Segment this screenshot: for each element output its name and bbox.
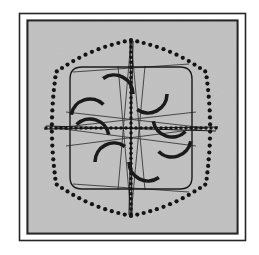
outline-dot	[198, 66, 202, 70]
outline-dot	[110, 209, 114, 213]
outline-dot	[51, 101, 55, 105]
outline-dot	[71, 193, 75, 197]
cross-dot-vertical	[129, 106, 132, 109]
outline-dot	[51, 95, 55, 99]
cross-dot-vertical	[129, 96, 132, 99]
cross-dot-horizontal	[124, 126, 127, 129]
outline-dot	[207, 157, 211, 161]
outline-dot	[155, 207, 159, 211]
outline-dot	[50, 115, 54, 119]
outline-dot	[77, 56, 81, 60]
outline-dot	[205, 177, 209, 181]
cross-dot-horizontal	[54, 126, 57, 129]
outline-dot	[123, 39, 127, 43]
outline-dot	[135, 39, 139, 43]
cross-dot-vertical	[129, 187, 132, 190]
figure-root	[0, 0, 259, 255]
outline-dot	[96, 205, 100, 209]
outline-dot	[142, 211, 146, 215]
cross-dot-horizontal	[109, 126, 112, 129]
cross-dot-vertical	[129, 197, 132, 200]
cross-dot-horizontal	[189, 126, 192, 129]
outline-dot	[51, 157, 55, 161]
cross-dot-horizontal	[84, 126, 87, 129]
outline-dot	[116, 41, 120, 45]
outline-dot	[208, 122, 212, 126]
cross-dot-vertical	[129, 212, 132, 215]
outline-dot	[198, 186, 202, 190]
cross-dot-vertical	[129, 177, 132, 180]
outline-dot	[110, 43, 114, 47]
outline-dot	[148, 209, 152, 213]
outline-dot	[53, 177, 57, 181]
outline-dot	[207, 150, 211, 154]
cross-dot-vertical	[129, 40, 132, 43]
cross-dot-vertical	[129, 192, 132, 195]
cross-dot-horizontal	[164, 126, 167, 129]
cross-dot-horizontal	[74, 126, 77, 129]
figure-canvas	[0, 0, 259, 255]
cross-dot-horizontal	[89, 126, 92, 129]
outline-dot	[52, 88, 56, 92]
cross-dot-vertical	[129, 116, 132, 119]
cross-dot-horizontal	[169, 126, 172, 129]
outline-dot	[60, 66, 64, 70]
outline-dot	[103, 45, 107, 49]
outline-dot	[55, 69, 59, 73]
cross-dot-vertical	[129, 66, 132, 69]
outline-dot	[208, 144, 212, 148]
cross-dot-vertical	[129, 76, 132, 79]
cross-dot-vertical	[129, 61, 132, 64]
cross-dot-vertical	[129, 101, 132, 104]
outline-dot	[148, 43, 152, 47]
outline-dot	[168, 50, 172, 54]
outline-dot	[55, 182, 59, 186]
cross-dot-horizontal	[99, 126, 102, 129]
cross-dot-horizontal	[179, 126, 182, 129]
cross-dot-vertical	[129, 147, 132, 150]
cross-dot-vertical	[129, 202, 132, 205]
outline-dot	[181, 56, 185, 60]
outline-dot	[187, 193, 191, 197]
outline-dot	[161, 47, 165, 51]
outline-dot	[103, 207, 107, 211]
cross-dot-vertical	[129, 121, 132, 124]
cross-dot-horizontal	[149, 126, 152, 129]
outline-dot	[206, 164, 210, 168]
outline-dot	[53, 170, 57, 174]
cross-dot-vertical	[129, 45, 132, 48]
cross-dot-horizontal	[214, 126, 217, 129]
outline-dot	[142, 41, 146, 45]
outline-dot	[168, 202, 172, 206]
outline-dot	[203, 182, 207, 186]
outline-dot	[203, 69, 207, 73]
cross-dot-horizontal	[129, 126, 132, 129]
cross-dot-horizontal	[194, 126, 197, 129]
cross-dot-vertical	[129, 50, 132, 53]
outline-dot	[90, 50, 94, 54]
cross-dot-vertical	[129, 131, 132, 134]
cross-dot-horizontal	[94, 126, 97, 129]
outline-dot	[65, 62, 69, 66]
outline-dot	[50, 122, 54, 126]
outline-dot	[161, 205, 165, 209]
outline-dot	[96, 47, 100, 51]
outline-dot	[206, 88, 210, 92]
cross-dot-vertical	[129, 152, 132, 155]
outline-dot	[50, 129, 54, 133]
cross-dot-horizontal	[159, 126, 162, 129]
cross-dot-horizontal	[184, 126, 187, 129]
cross-dot-vertical	[129, 111, 132, 114]
cross-dot-horizontal	[69, 126, 72, 129]
cross-dot-horizontal	[174, 126, 177, 129]
cross-dot-vertical	[129, 136, 132, 139]
cross-dot-horizontal	[79, 126, 82, 129]
outline-dot	[205, 75, 209, 79]
cross-dot-vertical	[129, 157, 132, 160]
outline-dot	[135, 212, 139, 216]
outline-dot	[65, 189, 69, 193]
outline-dot	[208, 115, 212, 119]
outline-dot	[123, 212, 127, 216]
cross-dot-horizontal	[139, 126, 142, 129]
cross-dot-horizontal	[204, 126, 207, 129]
